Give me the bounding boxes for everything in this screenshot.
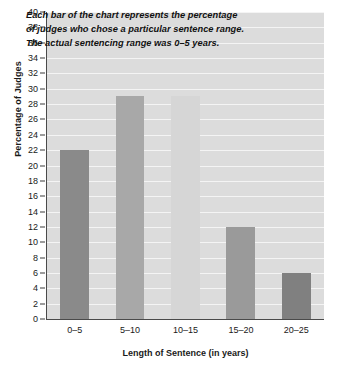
y-tick-mark <box>40 58 45 59</box>
y-tick-label: 8 <box>16 253 38 263</box>
gridline <box>47 73 324 74</box>
bar <box>171 96 200 319</box>
bar <box>60 150 89 319</box>
y-tick-mark <box>40 104 45 105</box>
y-tick-mark <box>40 134 45 135</box>
bar <box>226 227 255 319</box>
y-tick-mark <box>40 303 45 304</box>
y-tick-label: 22 <box>16 145 38 155</box>
y-tick-label: 24 <box>16 130 38 140</box>
gridline <box>47 58 324 59</box>
y-tick-label: 14 <box>16 207 38 217</box>
y-tick-mark <box>40 211 45 212</box>
x-tick-label: 5–10 <box>120 325 140 335</box>
chart-annotation: Each bar of the chart represents the per… <box>26 8 276 51</box>
y-tick-label: 18 <box>16 176 38 186</box>
y-tick-label: 10 <box>16 237 38 247</box>
gridline <box>47 89 324 90</box>
y-tick-mark <box>40 73 45 74</box>
y-tick-mark <box>40 150 45 151</box>
x-axis-tick-labels: 0–55–1010–1515–2020–25 <box>47 325 324 339</box>
y-tick-mark <box>40 257 45 258</box>
y-tick-mark <box>40 242 45 243</box>
y-tick-label: 20 <box>16 161 38 171</box>
x-axis-spine <box>46 319 324 320</box>
y-tick-mark <box>40 196 45 197</box>
y-tick-label: 4 <box>16 283 38 293</box>
y-tick-mark <box>40 272 45 273</box>
x-axis-title: Length of Sentence (in years) <box>47 348 324 358</box>
x-tick-label: 15–20 <box>228 325 253 335</box>
y-tick-label: 32 <box>16 68 38 78</box>
x-tick-label: 0–5 <box>67 325 82 335</box>
y-tick-label: 6 <box>16 268 38 278</box>
x-tick-label: 10–15 <box>173 325 198 335</box>
y-tick-label: 12 <box>16 222 38 232</box>
annotation-line: of judges who chose a particular sentenc… <box>26 22 276 36</box>
x-tick-label: 20–25 <box>284 325 309 335</box>
y-tick-mark <box>40 319 45 320</box>
y-tick-mark <box>40 180 45 181</box>
bar <box>282 273 311 319</box>
y-tick-mark <box>40 119 45 120</box>
y-tick-label: 30 <box>16 84 38 94</box>
bar <box>116 96 145 319</box>
y-tick-mark <box>40 165 45 166</box>
y-tick-mark <box>40 226 45 227</box>
y-tick-label: 16 <box>16 191 38 201</box>
y-tick-label: 2 <box>16 299 38 309</box>
y-tick-label: 0 <box>16 314 38 324</box>
plot-area <box>47 12 324 319</box>
bar-chart-figure: Percentage of Judges 0246810121416182022… <box>0 0 346 371</box>
y-tick-mark <box>40 288 45 289</box>
y-tick-label: 34 <box>16 53 38 63</box>
y-tick-mark <box>40 88 45 89</box>
y-tick-label: 26 <box>16 114 38 124</box>
annotation-line: The actual sentencing range was 0–5 year… <box>26 36 276 50</box>
y-tick-label: 28 <box>16 99 38 109</box>
y-axis-spine <box>46 12 47 320</box>
y-axis-tick-labels: 0246810121416182022242628303234363840 <box>16 12 38 319</box>
annotation-line: Each bar of the chart represents the per… <box>26 8 276 22</box>
